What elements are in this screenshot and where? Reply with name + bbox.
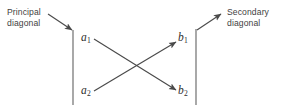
secondary-diagonal-pointer <box>197 14 221 30</box>
principal-diagonal-pointer <box>48 14 72 30</box>
determinant-cross-multiplication-figure: Principal diagonal Secondary diagonal a1… <box>0 0 285 110</box>
a2-to-b1-arrow <box>94 42 176 91</box>
diagram-vector-layer <box>0 0 285 110</box>
a1-to-b2-arrow <box>94 39 176 90</box>
arrow-group <box>48 14 221 91</box>
